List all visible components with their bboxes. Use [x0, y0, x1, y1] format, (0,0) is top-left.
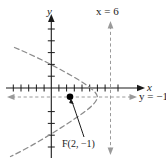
directrix-label: x = 6	[96, 6, 119, 17]
directrix-arrow-down	[108, 148, 114, 156]
parabola-figure: y x x = 6 y = −1 F(2, −1)	[0, 0, 166, 162]
y-axis-label: y	[47, 6, 52, 17]
focus-label: F(2, −1)	[62, 139, 95, 149]
focus-point	[67, 94, 74, 101]
y-axis	[48, 14, 55, 158]
axis-of-symmetry-label: y = −1	[139, 91, 166, 102]
axis-of-symmetry-arrow-right	[130, 94, 138, 100]
directrix-arrow-up	[108, 21, 114, 29]
axis-of-symmetry-arrow-left	[7, 94, 15, 100]
x-axis	[6, 85, 145, 92]
focus-leader-path	[72, 101, 84, 138]
